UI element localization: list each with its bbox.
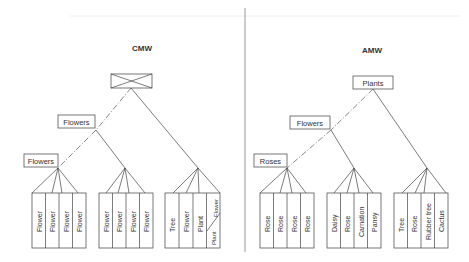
node-roses: Roses — [254, 154, 287, 167]
svg-text:Flowers: Flowers — [28, 157, 55, 166]
svg-text:Flowers: Flowers — [63, 118, 90, 127]
leaf: Rose — [291, 216, 298, 232]
leaf: Cactus — [438, 210, 445, 232]
leaf: Plant — [197, 216, 204, 232]
diagram-canvas: CMW Flowers Flowers — [0, 0, 469, 262]
leaf: Rose — [411, 216, 418, 232]
leaf-group-1: Flower Flower Flower Flower — [32, 193, 86, 248]
leaf: Rose — [264, 216, 271, 232]
leaf: Flower — [103, 210, 110, 232]
leaf-group-2: Flower Flower Flower Flower — [99, 193, 153, 248]
svg-text:Plants: Plants — [363, 79, 384, 88]
svg-text:Roses: Roses — [260, 157, 282, 166]
leaf: Rose — [304, 216, 311, 232]
leaf: Daisy — [331, 214, 339, 232]
edge — [331, 89, 373, 130]
leaf: Flower — [130, 210, 137, 232]
leaf: Flower — [49, 210, 56, 232]
fan-lines — [32, 168, 220, 193]
svg-text:Flowers: Flowers — [297, 119, 324, 128]
crossed-box-icon — [111, 74, 152, 88]
fan-lines — [260, 168, 446, 193]
leaf-group-3: Tree Rose Rubber tree Cactus — [394, 193, 448, 248]
leaf: Flower — [36, 210, 43, 232]
leaf-group-2: Daisy Rose Carnation Pansy — [327, 193, 381, 248]
leaf: Rubber tree — [425, 203, 432, 240]
panel-title: CMW — [132, 44, 152, 53]
edge — [373, 89, 427, 168]
edge — [131, 88, 198, 168]
leaf: Flower — [213, 199, 219, 217]
leaf: Plant — [211, 231, 217, 245]
leaf: Tree — [398, 218, 405, 232]
leaf: Flower — [143, 210, 150, 232]
edge — [331, 130, 354, 168]
leaf: Pansy — [371, 212, 379, 232]
node-flowers-2: Flowers — [24, 154, 58, 167]
leaf: Flower — [76, 210, 83, 232]
node-flowers-1: Flowers — [58, 115, 95, 128]
leaf: Rose — [277, 216, 284, 232]
panel-title: AMW — [362, 46, 382, 55]
leaf: Flower — [183, 210, 190, 232]
edge — [287, 130, 331, 168]
panel-cmw: CMW Flowers Flowers — [24, 44, 220, 248]
edge — [58, 130, 96, 168]
panel-amw: AMW Plants Flowers Roses — [254, 46, 448, 248]
edge — [96, 88, 131, 130]
leaf: Flower — [63, 210, 70, 232]
leaf: Carnation — [358, 207, 365, 237]
node-flowers: Flowers — [290, 116, 330, 129]
edge — [96, 130, 125, 168]
node-plants: Plants — [353, 76, 393, 89]
leaf: Rose — [344, 216, 351, 232]
leaf: Tree — [169, 218, 176, 232]
leaf-group-3: Tree Flower Plant Plant Flower — [165, 193, 220, 248]
leaf: Flower — [116, 210, 123, 232]
leaf-group-1: Rose Rose Rose Rose — [260, 193, 314, 248]
